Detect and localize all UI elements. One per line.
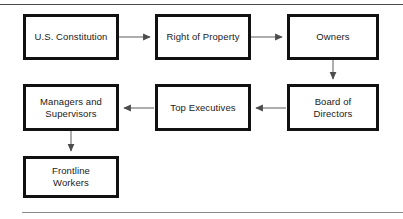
node-frontline-workers[interactable]: Frontline Workers [23, 156, 119, 198]
node-us-constitution[interactable]: U.S. Constitution [23, 14, 119, 60]
node-label-frontline-workers: Frontline Workers [49, 165, 93, 189]
node-managers-and-supervisors[interactable]: Managers and Supervisors [23, 84, 119, 131]
node-label-top-executives: Top Executives [167, 102, 238, 114]
node-label-owners: Owners [313, 31, 352, 43]
node-top-executives[interactable]: Top Executives [155, 84, 251, 131]
node-owners[interactable]: Owners [287, 14, 379, 60]
node-label-right-of-property: Right of Property [164, 31, 243, 43]
node-label-managers-and-supervisors: Managers and Supervisors [37, 96, 105, 120]
node-label-board-of-directors: Board of Directors [311, 96, 356, 120]
flowchart-figure: U.S. Constitution Right of Property Owne… [0, 0, 403, 219]
bottom-divider-rule [22, 212, 403, 213]
node-board-of-directors[interactable]: Board of Directors [287, 84, 379, 131]
node-right-of-property[interactable]: Right of Property [155, 14, 251, 60]
node-label-us-constitution: U.S. Constitution [32, 31, 111, 43]
